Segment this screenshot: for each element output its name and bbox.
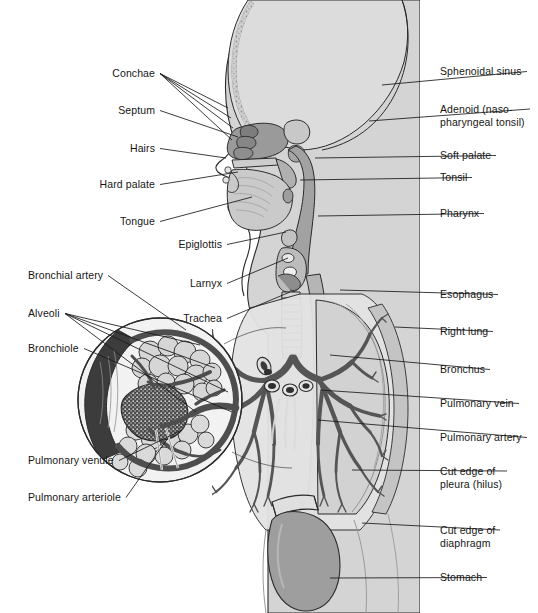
leader-line (160, 74, 231, 119)
label-tonsil: Tonsil (440, 171, 467, 184)
label-alveoli: Alveoli (28, 307, 60, 320)
label-pulmonary-arteriole: Pulmonary arteriole (28, 491, 121, 504)
leader-line (160, 74, 228, 109)
label-text: Bronchial artery (28, 269, 103, 281)
label-trachea: Trachea (183, 312, 222, 325)
label-text: Conchae (112, 67, 155, 79)
label-adenoid-naso-pharyngeal-tonsil: Adenoid (naso-pharyngeal tonsil) (440, 103, 525, 128)
label-pulmonary-artery: Pulmonary artery (440, 431, 522, 444)
label-esophagus: Esophagus (440, 288, 493, 301)
label-text: Hairs (130, 142, 155, 154)
label-text: Cut edge of (440, 524, 495, 536)
label-text: Tongue (120, 215, 155, 227)
label-hard-palate: Hard palate (100, 178, 155, 191)
label-text: Hard palate (100, 178, 155, 190)
label-tongue: Tongue (120, 215, 155, 228)
label-bronchus: Bronchus (440, 363, 485, 376)
label-text: Pulmonary vein (440, 397, 514, 409)
label-text: Pulmonary venule (28, 454, 114, 466)
label-larnyx: Larnyx (190, 277, 222, 290)
label-text: Pulmonary arteriole (28, 491, 121, 503)
respiratory-system-figure: ConchaeSeptumHairsHard palateTongueEpigl… (0, 0, 538, 613)
leader-line (160, 111, 238, 138)
label-septum: Septum (118, 104, 155, 117)
label-text: Sphenoidal sinus (440, 65, 522, 77)
label-right-lung: Right lung (440, 325, 488, 338)
label-text: Pulmonary artery (440, 431, 522, 443)
label-text: diaphragm (440, 537, 491, 549)
label-conchae: Conchae (112, 67, 155, 80)
label-text: Septum (118, 104, 155, 116)
label-text: Trachea (183, 312, 222, 324)
label-epiglottis: Epiglottis (178, 238, 222, 251)
label-bronchial-artery: Bronchial artery (28, 269, 103, 282)
leader-line (160, 74, 233, 129)
body-silhouette (206, 0, 420, 613)
label-bronchiole: Bronchiole (28, 342, 79, 355)
label-text: Bronchus (440, 363, 485, 375)
label-text: Tonsil (440, 171, 467, 183)
label-text: Alveoli (28, 307, 60, 319)
label-pharynx: Pharynx (440, 207, 479, 220)
label-text: Esophagus (440, 288, 493, 300)
label-text: Soft palate (440, 149, 491, 161)
label-sphenoidal-sinus: Sphenoidal sinus (440, 65, 522, 78)
leader-line (160, 149, 226, 159)
label-text: Right lung (440, 325, 488, 337)
label-stomach: Stomach (440, 571, 482, 584)
label-cut-edge-of-diaphragm: Cut edge ofdiaphragm (440, 524, 495, 549)
cut-off-caption (0, 598, 538, 613)
label-text: Adenoid (naso- (440, 103, 513, 115)
label-text: Pharynx (440, 207, 479, 219)
label-text: pleura (hilus) (440, 478, 502, 490)
label-soft-palate: Soft palate (440, 149, 491, 162)
label-cut-edge-of-pleura-hilus: Cut edge ofpleura (hilus) (440, 465, 502, 490)
anatomy-illustration (0, 0, 538, 613)
label-pulmonary-vein: Pulmonary vein (440, 397, 514, 410)
label-text: pharyngeal tonsil) (440, 116, 525, 128)
label-text: Cut edge of (440, 465, 495, 477)
label-text: Epiglottis (178, 238, 222, 250)
label-text: Larnyx (190, 277, 222, 289)
label-hairs: Hairs (130, 142, 155, 155)
label-pulmonary-venule: Pulmonary venule (28, 454, 114, 467)
leader-line (160, 74, 232, 141)
label-text: Bronchiole (28, 342, 79, 354)
label-text: Stomach (440, 571, 482, 583)
